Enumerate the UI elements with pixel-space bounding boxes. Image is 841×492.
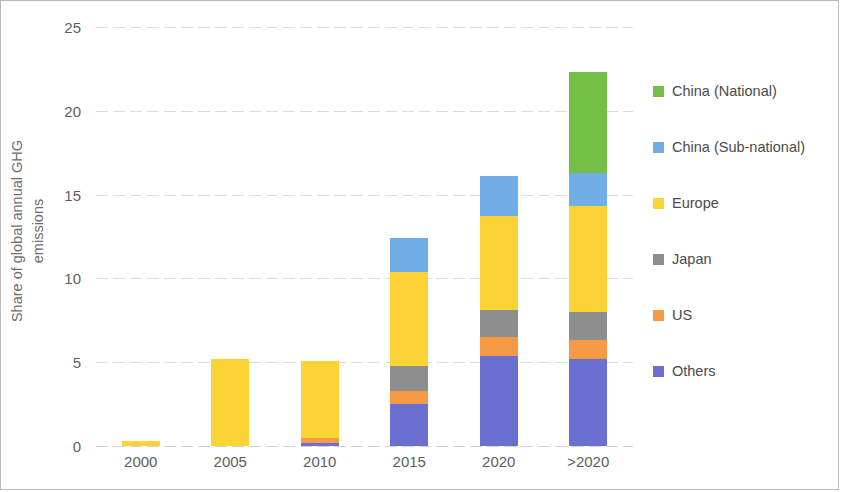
bar-stack xyxy=(301,361,339,446)
bar-segment[interactable] xyxy=(569,206,607,312)
y-tick-label: 5 xyxy=(21,354,81,371)
chart-figure: Share of global annual GHG emissions 051… xyxy=(0,0,839,490)
bar-segment[interactable] xyxy=(301,438,339,443)
x-tick-label: 2010 xyxy=(303,453,336,470)
bar-group[interactable] xyxy=(122,27,160,446)
legend-swatch-icon xyxy=(653,366,664,377)
bar-group[interactable] xyxy=(569,27,607,446)
bar-segment[interactable] xyxy=(569,173,607,207)
bar-segment[interactable] xyxy=(390,366,428,391)
bar-segment[interactable] xyxy=(122,441,160,446)
plot-area xyxy=(96,27,633,446)
gridline xyxy=(96,446,633,447)
bar-segment[interactable] xyxy=(480,356,518,447)
bar-segment[interactable] xyxy=(480,337,518,355)
bar-segment[interactable] xyxy=(480,176,518,216)
x-tick-label: >2020 xyxy=(567,453,609,470)
bar-stack xyxy=(569,72,607,446)
bar-segment[interactable] xyxy=(390,272,428,366)
x-tick-label: 2000 xyxy=(124,453,157,470)
legend-swatch-icon xyxy=(653,86,664,97)
bar-stack xyxy=(480,176,518,446)
chart-legend: China (National)China (Sub-national)Euro… xyxy=(653,63,838,399)
legend-label: China (Sub-national) xyxy=(672,139,805,155)
bar-series-container xyxy=(96,27,633,446)
x-axis-ticks: 20002005201020152020>2020 xyxy=(96,453,633,483)
legend-label: Japan xyxy=(672,251,712,267)
legend-swatch-icon xyxy=(653,142,664,153)
bar-segment[interactable] xyxy=(569,72,607,173)
bar-stack xyxy=(390,238,428,446)
x-tick-label: 2015 xyxy=(393,453,426,470)
legend-label: Europe xyxy=(672,195,719,211)
bar-segment[interactable] xyxy=(390,404,428,446)
y-tick-label: 0 xyxy=(21,438,81,455)
y-tick-label: 20 xyxy=(21,102,81,119)
y-tick-label: 25 xyxy=(21,19,81,36)
bar-stack xyxy=(122,441,160,446)
x-tick-label: 2020 xyxy=(482,453,515,470)
legend-item[interactable]: Europe xyxy=(653,175,838,231)
bar-segment[interactable] xyxy=(480,310,518,337)
bar-segment[interactable] xyxy=(301,361,339,438)
x-tick-label: 2005 xyxy=(214,453,247,470)
legend-item[interactable]: Japan xyxy=(653,231,838,287)
legend-swatch-icon xyxy=(653,310,664,321)
bar-segment[interactable] xyxy=(569,359,607,446)
legend-item[interactable]: China (National) xyxy=(653,63,838,119)
bar-stack xyxy=(211,359,249,446)
bar-segment[interactable] xyxy=(480,216,518,310)
legend-label: Others xyxy=(672,363,716,379)
legend-swatch-icon xyxy=(653,254,664,265)
bar-segment[interactable] xyxy=(390,391,428,404)
bar-segment[interactable] xyxy=(301,443,339,446)
bar-segment[interactable] xyxy=(569,312,607,340)
legend-swatch-icon xyxy=(653,198,664,209)
bar-group[interactable] xyxy=(390,27,428,446)
legend-item[interactable]: Others xyxy=(653,343,838,399)
legend-label: US xyxy=(672,307,692,323)
y-tick-label: 15 xyxy=(21,186,81,203)
bar-segment[interactable] xyxy=(390,238,428,272)
legend-item[interactable]: China (Sub-national) xyxy=(653,119,838,175)
y-axis-ticks: 0510152025 xyxy=(21,27,81,446)
bar-group[interactable] xyxy=(211,27,249,446)
bar-group[interactable] xyxy=(301,27,339,446)
legend-label: China (National) xyxy=(672,83,777,99)
bar-segment[interactable] xyxy=(211,359,249,446)
bar-group[interactable] xyxy=(480,27,518,446)
legend-item[interactable]: US xyxy=(653,287,838,343)
bar-segment[interactable] xyxy=(569,340,607,358)
y-tick-label: 10 xyxy=(21,270,81,287)
